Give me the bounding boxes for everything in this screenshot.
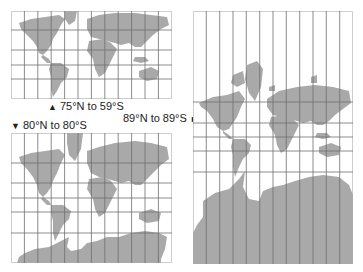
down-arrow-icon: ▼ [11,121,20,131]
map-80n-to-80s [11,133,172,263]
label-75n-59s: ▲ 75°N to 59°S [48,100,124,113]
map-89n-to-89s [193,11,353,264]
range-text: 89°N to 89°S [123,112,187,124]
up-arrow-icon: ▲ [48,102,57,112]
label-89n-89s: 89°N to 89°S ► [123,112,199,125]
world-map-80n-80s [11,133,172,263]
world-map-89n-89s [193,11,353,264]
map-75n-to-59s [11,11,172,99]
range-text: 80°N to 80°S [23,119,87,131]
range-text: 75°N to 59°S [60,100,124,112]
world-map-75n-59s [11,11,172,99]
label-80n-80s: ▼ 80°N to 80°S [11,119,87,132]
